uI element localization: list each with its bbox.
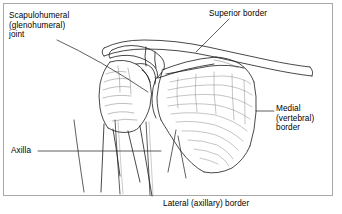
leader-lines — [38, 19, 274, 151]
label-superior-border: Superior border — [209, 9, 267, 19]
label-scapulohumeral-joint: Scapulohumeral (glenohumeral) joint — [9, 11, 69, 40]
label-medial-border: Medial (vertebral) border — [276, 104, 314, 133]
humerus-group — [99, 60, 156, 196]
label-lateral-border: Lateral (axillary) border — [163, 199, 249, 209]
ribs-group — [74, 120, 186, 195]
leader-scapulohumeral — [57, 40, 148, 92]
anatomical-figure: Scapulohumeral (glenohumeral) joint Supe… — [0, 0, 342, 214]
label-axilla: Axilla — [11, 146, 31, 156]
scapula-group — [152, 57, 256, 173]
leader-superior-border — [196, 19, 229, 52]
bone-outlines — [38, 19, 313, 196]
